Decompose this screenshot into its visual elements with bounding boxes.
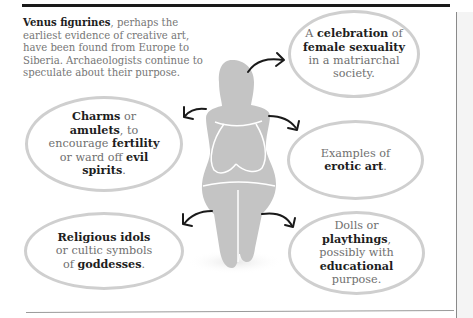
bold-text: fertility <box>112 136 159 150</box>
text: of <box>388 27 402 40</box>
bold-text: amulets <box>70 123 120 137</box>
bold-text: celebration <box>317 26 388 40</box>
arrow-to-erotic-icon <box>269 116 299 130</box>
bold-text: female sexuality <box>303 40 405 54</box>
arrow-to-celebration-icon <box>248 53 284 72</box>
text: . <box>383 160 387 173</box>
bubble-charms: Charms or amulets, to encourage fertilit… <box>25 96 183 192</box>
bubble-religious-text: Religious idols or cultic symbols of god… <box>46 231 162 271</box>
arrow-to-charms-icon <box>184 107 206 119</box>
bubble-celebration-text: A celebration of female sexuality in a m… <box>291 27 417 81</box>
text: . <box>141 258 145 271</box>
bubble-religious-idols: Religious idols or cultic symbols of god… <box>24 212 184 290</box>
text: in a matriarchal society. <box>308 54 399 80</box>
text: Examples of <box>321 147 390 160</box>
text: A <box>305 27 317 40</box>
venus-figurine-icon <box>202 60 276 268</box>
text: . <box>122 164 126 177</box>
bold-text: Charms <box>72 109 120 123</box>
bold-text: goddesses <box>77 257 141 271</box>
bubble-erotic-text: Examples of erotic art. <box>308 147 404 174</box>
text: Dolls or <box>334 219 378 232</box>
bubble-celebration: A celebration of female sexuality in a m… <box>288 10 420 98</box>
text: purpose. <box>332 273 382 286</box>
bold-text: Religious idols <box>58 230 151 244</box>
bold-text: educational <box>320 259 394 273</box>
bubble-dolls-text: Dolls or playthings, possibly with educa… <box>303 219 411 286</box>
arrow-to-dolls-icon <box>262 214 295 228</box>
arrow-to-religious-icon <box>183 211 212 226</box>
bubble-erotic-art: Examples of erotic art. <box>287 120 424 200</box>
bubble-charms-text: Charms or amulets, to encourage fertilit… <box>40 110 168 177</box>
text: or ward off <box>60 151 126 164</box>
page-gutter <box>456 12 473 318</box>
bold-text: playthings <box>322 232 388 246</box>
text: or <box>120 110 136 123</box>
bubble-dolls: Dolls or playthings, possibly with educa… <box>288 211 425 295</box>
bold-text: erotic art <box>324 159 383 173</box>
